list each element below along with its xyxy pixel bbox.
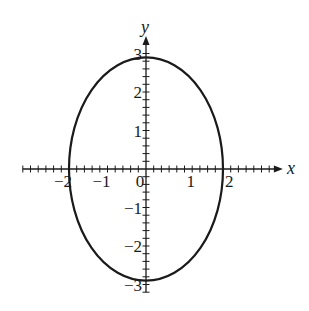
y-tick-label: −1 — [124, 199, 142, 218]
y-tick-label: 1 — [134, 122, 143, 141]
x-axis-arrow-icon — [274, 166, 283, 173]
y-tick-label: −3 — [124, 276, 142, 295]
axes — [23, 36, 283, 292]
x-axis-label: x — [286, 158, 295, 178]
y-tick-label: −2 — [124, 237, 142, 256]
y-axis-label: y — [139, 17, 149, 37]
x-tick-label: 1 — [187, 172, 196, 191]
x-tick-label: 2 — [225, 172, 234, 191]
y-axis-arrow-icon — [143, 36, 150, 45]
y-tick-label: 3 — [134, 45, 143, 64]
x-tick-label: −2 — [54, 172, 72, 191]
x-tick-label: −1 — [92, 172, 110, 191]
ellipse-diagram: −2−1012321−1−2−3 x y — [0, 0, 309, 311]
y-tick-label: 2 — [134, 83, 143, 102]
x-tick-label: 0 — [136, 172, 145, 191]
